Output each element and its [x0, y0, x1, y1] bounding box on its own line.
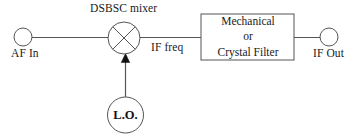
af-in-terminal-circle — [14, 28, 32, 46]
if-out-label: IF Out — [313, 47, 344, 59]
af-in-label: AF In — [11, 47, 39, 59]
filter-label-line-2: or — [243, 29, 253, 44]
filter-label-line-3: Crystal Filter — [217, 45, 278, 60]
local-oscillator-label: L.O. — [107, 97, 144, 134]
filter-label-line-1: Mechanical — [221, 14, 275, 29]
filter-block-label: Mechanical or Crystal Filter — [202, 14, 294, 60]
diagram-canvas — [0, 0, 354, 137]
mixer-title-label: DSBSC mixer — [90, 2, 157, 14]
if-out-terminal-circle — [320, 28, 338, 46]
block-diagram: DSBSC mixer AF In IF freq IF Out L.O. Me… — [0, 0, 354, 137]
if-freq-label: IF freq — [151, 41, 183, 53]
arrowhead-up-icon — [121, 54, 129, 63]
